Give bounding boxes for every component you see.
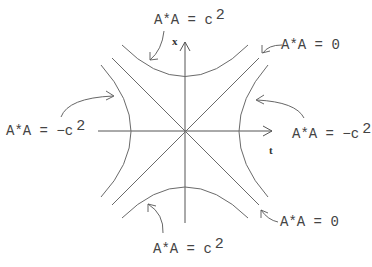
horizontal-axis-label: t [269,145,273,156]
vertical-axis-label: x [172,36,178,47]
label-bottom-timelike: A*A = c2 [153,242,224,257]
annotation-arrow-bottom [148,204,163,233]
label-top-timelike: A*A = c2 [154,13,225,28]
label-left-exponent: 2 [76,118,85,135]
annotation-arrow-top [150,31,164,60]
label-bottom-exponent: 2 [215,236,224,253]
label-upper-right-lightlike: A*A = 0 [281,38,340,52]
label-top-text: A*A = c [154,12,213,28]
annotation-arrow-lower-right [261,210,278,222]
label-right-exponent: 2 [362,121,371,138]
annotation-arrow-left [61,96,113,117]
label-right-text: A*A = −c [292,126,359,142]
annotation-arrow-right [257,100,304,118]
label-left-spacelike: A*A = −c2 [6,124,85,139]
label-upper-right-text: A*A = 0 [281,37,340,53]
annotation-arrowhead-left-icon [106,91,114,100]
label-top-exponent: 2 [216,7,225,24]
label-right-spacelike: A*A = −c2 [292,127,371,142]
annotation-arrowhead-right-icon [256,95,264,104]
label-lower-right-lightlike: A*A = 0 [280,215,339,229]
label-lower-right-text: A*A = 0 [280,214,339,230]
label-bottom-text: A*A = c [153,241,212,257]
label-left-text: A*A = −c [6,123,73,139]
